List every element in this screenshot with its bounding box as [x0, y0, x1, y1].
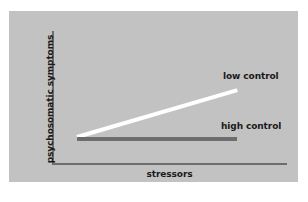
- series-line-high-control: [77, 137, 237, 141]
- y-axis-label: psychosomatic symptoms: [45, 34, 55, 164]
- chart-figure: low control high control psychosomatic s…: [0, 0, 308, 202]
- series-line-low-control: [76, 88, 237, 139]
- series-label-high-control: high control: [221, 121, 281, 131]
- x-axis-label: stressors: [52, 169, 287, 179]
- x-axis-line: [52, 163, 287, 165]
- chart-panel: low control high control psychosomatic s…: [9, 11, 298, 182]
- series-label-low-control: low control: [223, 71, 279, 81]
